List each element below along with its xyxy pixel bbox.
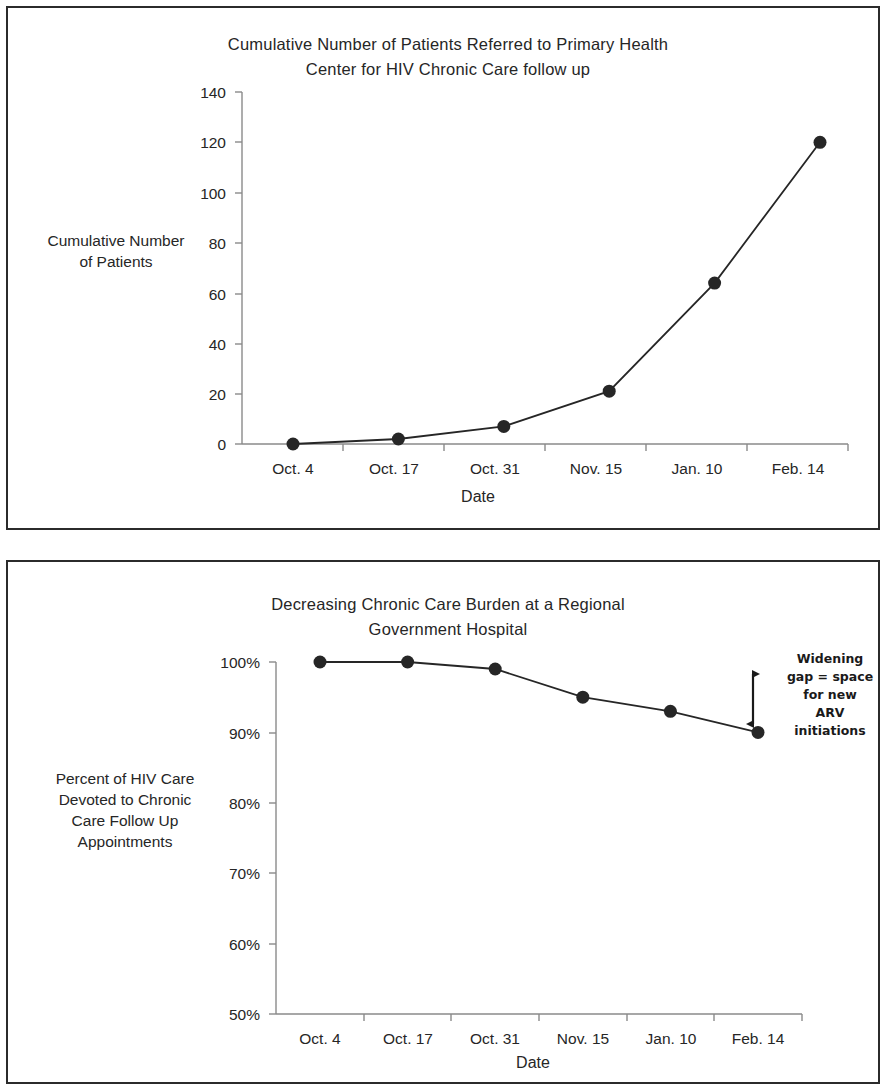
data-point	[497, 420, 510, 433]
chart1-x-tick-label-0: Oct. 4	[272, 460, 314, 477]
chart1-y-tick-label-6: 20	[209, 386, 227, 403]
data-point	[287, 438, 300, 451]
chart2-y-tick-label-3: 70%	[229, 865, 260, 882]
data-point	[401, 656, 414, 669]
chart1-y-tick-label-3: 80	[209, 235, 227, 252]
chart2-y-tick-labels: 100% 90% 80% 70% 60% 50%	[220, 654, 260, 1023]
chart1-y-tick-labels: 140 120 100 80 60 40 20 0	[200, 84, 226, 453]
chart2-series-markers	[314, 656, 765, 739]
chart-panel-chronic-care-burden: Decreasing Chronic Care Burden at a Regi…	[6, 560, 880, 1084]
chart-panel-cumulative-patients: Cumulative Number of Patients Referred t…	[6, 6, 880, 530]
chart2-y-tick-label-1: 90%	[229, 725, 260, 742]
chart2-y-tick-label-2: 80%	[229, 795, 260, 812]
chart2-y-tick-label-4: 60%	[229, 936, 260, 953]
chart2-x-ticks	[364, 1014, 802, 1021]
data-point	[603, 385, 616, 398]
chart1-y-tick-label-0: 140	[200, 84, 226, 101]
chart1-y-ticks	[235, 92, 242, 444]
chart1-y-tick-label-5: 40	[209, 336, 227, 353]
chart1-x-tick-label-2: Oct. 31	[470, 460, 520, 477]
chart1-series-line	[293, 142, 820, 444]
chart2-series-line	[320, 662, 758, 732]
chart1-plot: 140 120 100 80 60 40 20 0 Oct. 4 Oct. 17…	[8, 8, 882, 532]
chart2-y-ticks	[269, 662, 276, 1014]
chart2-x-tick-label-5: Feb. 14	[732, 1030, 785, 1047]
chart2-x-tick-label-2: Oct. 31	[470, 1030, 520, 1047]
chart1-x-tick-label-4: Jan. 10	[672, 460, 723, 477]
chart1-x-ticks	[343, 444, 848, 451]
chart1-y-tick-label-1: 120	[200, 134, 226, 151]
chart1-x-tick-label-5: Feb. 14	[772, 460, 825, 477]
chart2-plot: 100% 90% 80% 70% 60% 50% Oct. 4 Oct. 17 …	[8, 562, 882, 1086]
data-point	[708, 277, 721, 290]
chart2-x-tick-labels: Oct. 4 Oct. 17 Oct. 31 Nov. 15 Jan. 10 F…	[299, 1030, 784, 1047]
chart1-x-tick-label-1: Oct. 17	[369, 460, 419, 477]
data-point	[489, 663, 502, 676]
data-point	[814, 136, 827, 149]
chart2-x-tick-label-0: Oct. 4	[299, 1030, 341, 1047]
chart1-y-tick-label-7: 0	[217, 436, 226, 453]
chart2-y-tick-label-0: 100%	[220, 654, 260, 671]
chart2-y-tick-label-5: 50%	[229, 1006, 260, 1023]
chart1-y-tick-label-4: 60	[209, 286, 227, 303]
chart2-x-tick-label-1: Oct. 17	[383, 1030, 433, 1047]
chart1-x-tick-label-3: Nov. 15	[570, 460, 622, 477]
chart1-series-markers	[287, 136, 827, 451]
data-point	[392, 433, 405, 446]
data-point	[664, 705, 677, 718]
chart2-x-tick-label-3: Nov. 15	[557, 1030, 609, 1047]
chart1-y-tick-label-2: 100	[200, 185, 226, 202]
data-point	[576, 691, 589, 704]
figure-page: Cumulative Number of Patients Referred t…	[0, 0, 886, 1090]
chart2-x-tick-label-4: Jan. 10	[646, 1030, 697, 1047]
chart1-x-tick-labels: Oct. 4 Oct. 17 Oct. 31 Nov. 15 Jan. 10 F…	[272, 460, 824, 477]
data-point	[752, 726, 765, 739]
data-point	[314, 656, 327, 669]
